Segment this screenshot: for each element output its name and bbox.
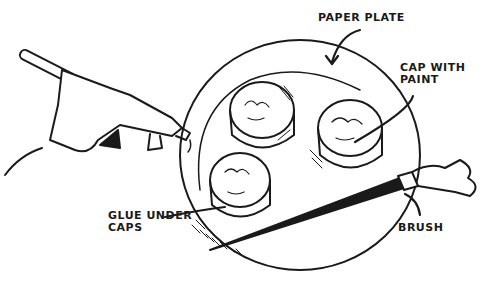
- label-glue-under-caps: GLUE UNDER CAPS: [108, 210, 192, 234]
- paint-cap-2: [310, 100, 382, 168]
- paper-plate: [180, 40, 420, 270]
- paint-cap-1: [230, 82, 294, 148]
- label-paper-plate: PAPER PLATE: [318, 12, 405, 24]
- glue-gun: [5, 55, 191, 175]
- label-cap-with-paint: CAP WITH PAINT: [400, 62, 465, 86]
- label-brush: BRUSH: [398, 222, 443, 234]
- drawing: [0, 0, 493, 290]
- illustration: PAPER PLATE CAP WITH PAINT GLUE UNDER CA…: [0, 0, 493, 290]
